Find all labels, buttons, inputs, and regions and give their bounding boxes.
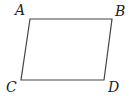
parallelogram-shape [21, 19, 112, 80]
vertex-label-c: C [6, 79, 17, 95]
vertex-label-b: B [114, 3, 125, 19]
diagram-canvas: A B C D [0, 0, 132, 96]
parallelogram-figure: A B C D [0, 0, 132, 96]
vertex-label-d: D [107, 79, 119, 95]
vertex-label-a: A [13, 2, 25, 18]
